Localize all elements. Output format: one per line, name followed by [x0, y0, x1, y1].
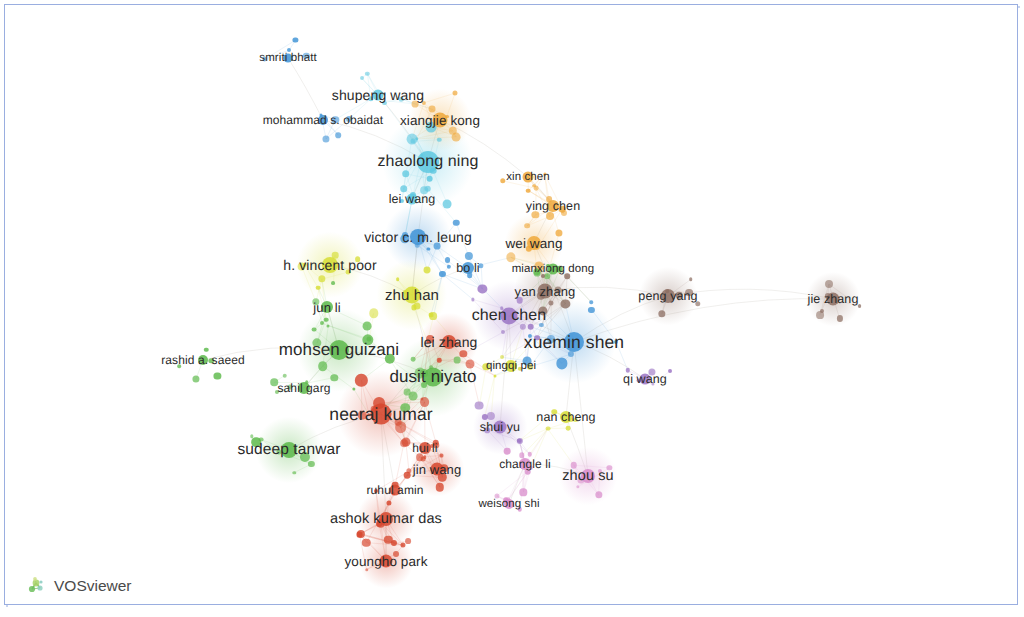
node-label: ying chen — [526, 199, 580, 213]
network-node[interactable] — [524, 223, 530, 229]
network-node[interactable] — [424, 267, 431, 274]
network-node[interactable] — [426, 175, 433, 182]
network-node[interactable] — [534, 186, 539, 191]
network-node[interactable] — [445, 257, 451, 263]
node-label: youngho park — [344, 554, 427, 569]
node-label: wei wang — [505, 236, 562, 251]
node-label: sahil garg — [277, 381, 330, 395]
network-node[interactable] — [402, 170, 410, 178]
node-label: jie zhang — [808, 292, 859, 306]
network-node[interactable] — [452, 132, 461, 141]
node-label: dusit niyato — [389, 367, 476, 387]
network-node[interactable] — [405, 538, 411, 544]
node-label: xin chen — [506, 171, 550, 183]
network-node[interactable] — [500, 355, 504, 359]
node-label: changle li — [499, 457, 551, 471]
network-node[interactable] — [335, 132, 341, 138]
network-node[interactable] — [363, 321, 372, 330]
network-node[interactable] — [475, 401, 484, 410]
node-label: peng yang — [638, 289, 697, 303]
network-node[interactable] — [332, 281, 336, 285]
node-label: zhou su — [562, 468, 614, 484]
node-label: bo li — [456, 261, 479, 275]
vosviewer-logo-text: VOSviewer — [54, 577, 132, 595]
node-label: weisong shi — [478, 498, 539, 510]
network-node[interactable] — [816, 311, 824, 319]
node-label: jun li — [313, 300, 340, 315]
node-label: neeraj kumar — [329, 404, 432, 425]
node-label: victor c. m. leung — [364, 229, 472, 245]
node-label: mianxiong dong — [512, 263, 595, 275]
network-node[interactable] — [668, 369, 672, 373]
network-node[interactable] — [454, 356, 461, 363]
network-node[interactable] — [204, 347, 209, 352]
node-label: rashid a. saeed — [161, 353, 245, 367]
node-label: h. vincent poor — [283, 257, 376, 273]
network-node[interactable] — [541, 274, 545, 278]
network-node[interactable] — [430, 312, 438, 320]
node-label: yan zhang — [515, 284, 576, 299]
network-node[interactable] — [453, 220, 460, 227]
network-node[interactable] — [282, 373, 287, 378]
node-label: smriti bhatt — [259, 52, 316, 64]
network-node[interactable] — [590, 300, 594, 304]
node-label: zhu han — [385, 287, 439, 304]
network-node[interactable] — [501, 330, 505, 334]
network-node[interactable] — [360, 76, 364, 80]
node-label: ruhul amin — [366, 483, 423, 497]
node-label: mohsen guizani — [279, 340, 399, 360]
node-label: shui yu — [480, 420, 520, 434]
network-node[interactable] — [316, 285, 321, 290]
network-node[interactable] — [689, 278, 693, 282]
network-node[interactable] — [324, 317, 329, 322]
node-label: sudeep tanwar — [238, 441, 341, 459]
node-label: hui li — [412, 441, 437, 455]
node-label: qingqi pei — [486, 360, 536, 372]
network-node[interactable] — [825, 280, 833, 288]
network-node[interactable] — [312, 327, 317, 332]
node-label: chen chen — [472, 307, 547, 325]
vosviewer-network-logo-icon — [26, 576, 46, 596]
node-label: qi wang — [623, 372, 667, 386]
vosviewer-screenshot: smriti bhattshupeng wangmohammad s. obai… — [0, 0, 1024, 617]
node-label: xiangjie kong — [400, 113, 480, 128]
node-label: lei zhang — [421, 334, 478, 350]
vosviewer-logo: VOSviewer — [26, 576, 132, 596]
network-node[interactable] — [318, 361, 328, 371]
network-node[interactable] — [443, 200, 452, 209]
network-node[interactable] — [545, 426, 550, 431]
network-node[interactable] — [504, 448, 511, 455]
node-label: nan cheng — [536, 410, 595, 424]
network-node[interactable] — [493, 374, 496, 377]
node-label: mohammad s. obaidat — [263, 113, 384, 127]
node-label: xuemin shen — [524, 332, 624, 353]
network-node[interactable] — [411, 357, 416, 362]
node-label: jin wang — [413, 462, 462, 477]
node-label: ashok kumar das — [330, 511, 442, 527]
network-node[interactable] — [400, 439, 408, 447]
network-node[interactable] — [566, 426, 571, 431]
network-node[interactable] — [403, 388, 410, 395]
network-node[interactable] — [526, 188, 531, 193]
network-node[interactable] — [396, 278, 400, 282]
node-label: lei wang — [389, 192, 436, 206]
network-node[interactable] — [546, 213, 554, 221]
node-label: shupeng wang — [332, 87, 424, 103]
node-label: zhaolong ning — [378, 153, 479, 171]
